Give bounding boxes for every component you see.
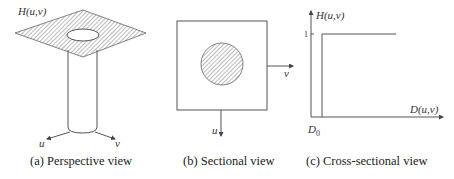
x-tick-label: D0	[307, 123, 320, 138]
caption-b: (b) Sectional view	[183, 154, 275, 168]
u-axis-label: u	[212, 124, 218, 136]
y-axis-label: H(u,v)	[315, 9, 345, 22]
figure-canvas: H(u,v) u v (a) Perspective view v u (b) …	[0, 0, 454, 179]
u-axis-label: u	[39, 137, 45, 149]
v-axis-label: v	[115, 137, 120, 149]
u-axis-arrow	[47, 132, 70, 139]
step-response-line	[322, 34, 396, 117]
v-axis-arrow	[95, 132, 115, 139]
cylinder	[68, 50, 97, 133]
panel-sectional-view: v u (b) Sectional view	[177, 21, 293, 168]
v-axis-label: v	[284, 67, 289, 79]
caption-c: (c) Cross-sectional view	[306, 154, 428, 168]
panel-cross-sectional-view: H(u,v) 1 D(u,v) D0 (c) Cross-sectional v…	[304, 9, 443, 168]
y-tick-label: 1	[304, 30, 308, 39]
x-axis-label: D(u,v)	[409, 103, 439, 116]
surface-label: H(u,v)	[17, 5, 47, 18]
caption-a: (a) Perspective view	[30, 154, 132, 168]
panel-perspective-view: H(u,v) u v (a) Perspective view	[15, 5, 146, 168]
hatched-circle	[201, 43, 243, 85]
hole-ellipse	[67, 29, 99, 41]
